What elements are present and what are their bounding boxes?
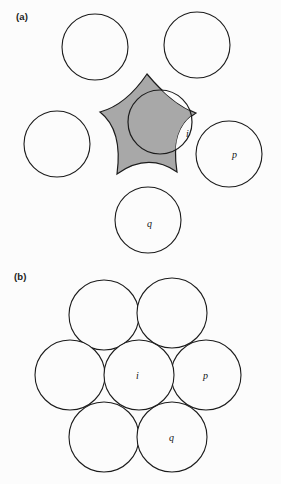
circle-upper-left — [69, 280, 139, 350]
label-p-panel-a: p — [231, 149, 237, 160]
circle-top-left — [62, 14, 128, 80]
label-i-panel-b: i — [136, 370, 139, 381]
circle-center-i — [104, 340, 174, 410]
figure-svg: i p q i p q — [0, 0, 281, 484]
circle-top-right — [164, 12, 230, 78]
circle-mid-left — [35, 340, 105, 410]
label-q-panel-b: q — [169, 432, 174, 443]
figure-container: (a) (b) — [0, 0, 281, 484]
panel-a-graphic: i p q — [24, 12, 262, 253]
circle-p — [196, 121, 262, 187]
circle-lower-left — [69, 402, 139, 472]
label-p-panel-b: p — [202, 370, 208, 381]
label-q-panel-a: q — [147, 218, 152, 229]
circle-upper-right — [137, 278, 207, 348]
panel-b-graphic: i p q — [35, 278, 241, 472]
circle-left — [24, 111, 90, 177]
label-i-panel-a: i — [186, 128, 189, 139]
